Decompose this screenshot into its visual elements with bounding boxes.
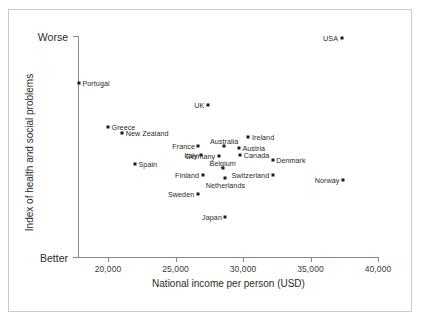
x-axis-line: [78, 257, 379, 258]
data-point: [196, 193, 199, 196]
data-point-label: Spain: [139, 159, 158, 168]
x-axis-tick: [108, 258, 109, 262]
data-point-label: USA: [323, 33, 338, 42]
y-axis-label-better: Better: [40, 252, 68, 264]
y-axis-title: Index of health and social problems: [24, 48, 35, 258]
data-point: [77, 82, 80, 85]
data-point-label: Canada: [244, 150, 269, 159]
x-axis-tick: [176, 258, 177, 262]
data-point-label: UK: [194, 100, 204, 109]
data-point: [224, 215, 227, 218]
x-axis-title: National income per person (USD): [78, 278, 379, 289]
plot-area: [78, 36, 392, 257]
data-point: [107, 126, 110, 129]
y-axis-tick-better: [73, 257, 78, 258]
scatter-plot-figure: Worse Better 20,00025,00030,00035,00040,…: [0, 0, 422, 323]
x-axis-tick: [311, 258, 312, 262]
data-point: [206, 103, 209, 106]
y-axis-label-worse: Worse: [38, 31, 68, 43]
data-point-label: Sweden: [168, 190, 194, 199]
data-point: [121, 132, 124, 135]
data-point: [217, 155, 220, 158]
data-point: [271, 174, 274, 177]
data-point-label: New Zealand: [126, 129, 169, 138]
x-axis-tick: [378, 258, 379, 262]
x-axis-tick: [243, 258, 244, 262]
data-point-label: Denmark: [276, 155, 306, 164]
x-axis-tick-label: 20,000: [95, 264, 122, 274]
data-point: [239, 153, 242, 156]
x-axis-tick-label: 25,000: [162, 264, 189, 274]
data-point: [201, 174, 204, 177]
data-point-label: Switzerland: [231, 171, 269, 180]
data-point-label: Norway: [315, 176, 340, 185]
data-point: [224, 177, 227, 180]
data-point-label: Japan: [202, 212, 222, 221]
data-point: [341, 179, 344, 182]
data-point-label: Ireland: [252, 132, 274, 141]
data-point: [237, 147, 240, 150]
data-point-label: Portugal: [82, 79, 109, 88]
x-axis-tick-label: 35,000: [297, 264, 324, 274]
x-axis-tick-label: 40,000: [365, 264, 392, 274]
data-point: [134, 162, 137, 165]
x-axis-tick-label: 30,000: [230, 264, 257, 274]
data-point: [271, 158, 274, 161]
data-point-label: Finland: [175, 171, 199, 180]
data-point: [340, 36, 343, 39]
data-point-label: France: [172, 142, 195, 151]
data-point: [247, 135, 250, 138]
data-point: [197, 145, 200, 148]
data-point-label: Australia: [210, 137, 238, 146]
data-point-label: Netherlands: [206, 181, 245, 190]
data-point-label: Belgium: [210, 159, 236, 168]
